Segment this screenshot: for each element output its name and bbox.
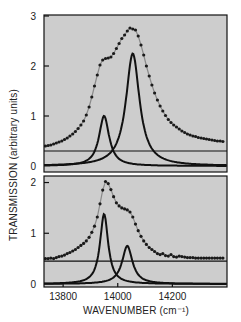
data-point	[150, 83, 153, 86]
data-point	[63, 254, 66, 257]
data-point	[107, 182, 110, 185]
data-point	[189, 256, 192, 259]
data-point	[134, 223, 137, 226]
data-point	[180, 255, 183, 258]
x-tick-label: 13800	[49, 291, 77, 302]
data-point	[167, 118, 170, 121]
y-tick-label: 2	[30, 61, 36, 72]
y-tick-label: 2	[30, 177, 36, 188]
data-point	[68, 251, 71, 254]
data-point	[123, 33, 126, 36]
y-tick-label: 3	[30, 11, 36, 22]
data-point	[120, 206, 123, 209]
data-point	[96, 215, 99, 218]
data-point	[145, 243, 148, 246]
data-point	[205, 137, 208, 140]
data-point	[134, 28, 137, 31]
data-point	[120, 37, 123, 40]
data-point	[156, 98, 159, 101]
y-tick-label: 0	[30, 161, 36, 172]
data-point	[60, 139, 63, 142]
data-point	[77, 246, 80, 249]
data-point	[137, 34, 140, 37]
data-point	[104, 180, 107, 183]
data-point	[85, 113, 88, 116]
data-point	[208, 257, 211, 260]
data-point	[150, 248, 153, 251]
data-point	[169, 253, 172, 256]
data-point	[90, 231, 93, 234]
data-point	[82, 242, 85, 245]
data-point	[131, 215, 134, 218]
data-point	[104, 57, 107, 60]
data-point	[161, 252, 164, 255]
data-point	[57, 255, 60, 258]
data-point	[93, 225, 96, 228]
data-point	[118, 204, 121, 207]
data-point	[197, 136, 200, 139]
data-point	[153, 91, 156, 94]
data-point	[219, 139, 222, 142]
data-point	[93, 84, 96, 87]
data-point	[98, 63, 101, 66]
data-point	[115, 201, 118, 204]
data-point	[167, 255, 170, 258]
data-point	[68, 134, 71, 137]
data-point	[148, 246, 151, 249]
data-point	[74, 248, 77, 251]
data-point	[213, 139, 216, 142]
data-point	[126, 208, 129, 211]
data-point	[153, 250, 156, 253]
x-axis-title: WAVENUMBER (cm⁻¹)	[83, 305, 189, 316]
data-point	[90, 95, 93, 98]
data-point	[216, 139, 219, 142]
data-point	[159, 104, 162, 107]
data-point	[63, 138, 66, 141]
panel-bottom: 012	[30, 176, 227, 290]
data-point	[71, 249, 74, 252]
data-point	[191, 134, 194, 137]
data-point	[128, 210, 131, 213]
data-point	[88, 236, 91, 239]
y-axis-title: TRANSMISSION (arbitrary units)	[8, 89, 19, 241]
data-point	[178, 127, 181, 130]
data-point	[139, 235, 142, 238]
data-point	[118, 42, 121, 45]
data-point	[142, 239, 145, 242]
data-point	[139, 43, 142, 46]
data-point	[221, 257, 224, 260]
plot-area	[44, 15, 227, 172]
data-point	[47, 144, 50, 147]
panel-top: 0123	[30, 11, 227, 173]
data-point	[98, 202, 101, 205]
data-point	[101, 58, 104, 61]
data-point	[161, 109, 164, 112]
x-tick-label: 14000	[104, 291, 132, 302]
data-point	[172, 255, 175, 258]
data-point	[66, 136, 69, 139]
data-point	[77, 127, 80, 130]
data-point	[101, 189, 104, 192]
data-point	[180, 129, 183, 132]
data-point	[145, 64, 148, 67]
data-point	[112, 195, 115, 198]
data-point	[169, 121, 172, 124]
data-point	[109, 55, 112, 58]
y-tick-label: 0	[30, 279, 36, 290]
data-point	[137, 229, 140, 232]
data-point	[79, 123, 82, 126]
data-point	[49, 257, 52, 260]
x-tick-label: 14200	[158, 291, 186, 302]
chart-panels: 0123012	[30, 11, 227, 290]
data-point	[200, 136, 203, 139]
data-point	[82, 119, 85, 122]
data-point	[142, 53, 145, 56]
data-point	[112, 52, 115, 55]
data-point	[221, 140, 224, 143]
data-point	[172, 123, 175, 126]
data-point	[183, 256, 186, 259]
data-point	[57, 140, 60, 143]
data-point	[183, 131, 186, 134]
data-point	[208, 138, 211, 141]
data-point	[71, 132, 74, 135]
